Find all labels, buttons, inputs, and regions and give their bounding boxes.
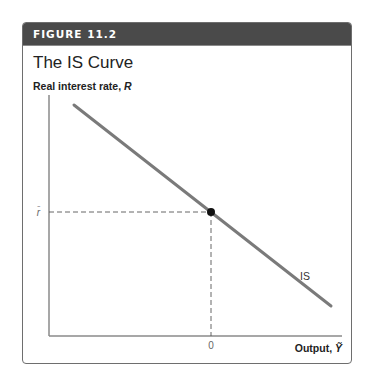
equilibrium-point (207, 208, 215, 216)
x-axis-variable: Ỹ (335, 342, 343, 354)
y-tick-label: r̄ (37, 206, 41, 218)
is-curve-line (74, 105, 331, 306)
curve-label: IS (300, 270, 310, 282)
x-tick-label: 0 (208, 340, 214, 351)
is-curve-chart: r̄ 0 IS Output, Ỹ (0, 0, 371, 383)
x-axis-label-text: Output, (295, 342, 335, 354)
x-axis-label: Output, Ỹ (295, 342, 343, 354)
